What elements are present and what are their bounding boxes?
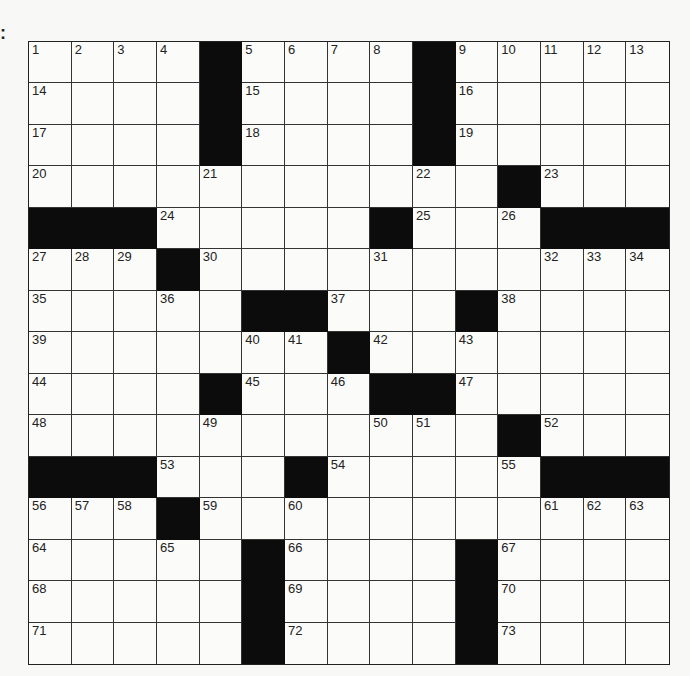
answer-cell[interactable]: 4 bbox=[157, 42, 200, 83]
answer-cell[interactable]: 55 bbox=[498, 457, 541, 498]
answer-cell[interactable] bbox=[285, 374, 328, 415]
answer-cell[interactable] bbox=[584, 83, 627, 124]
answer-cell[interactable] bbox=[541, 540, 584, 581]
answer-cell[interactable] bbox=[456, 415, 499, 456]
answer-cell[interactable] bbox=[370, 623, 413, 664]
answer-cell[interactable] bbox=[456, 166, 499, 207]
answer-cell[interactable] bbox=[114, 374, 157, 415]
answer-cell[interactable] bbox=[200, 208, 243, 249]
answer-cell[interactable]: 10 bbox=[498, 42, 541, 83]
answer-cell[interactable]: 6 bbox=[285, 42, 328, 83]
answer-cell[interactable] bbox=[114, 623, 157, 664]
answer-cell[interactable]: 3 bbox=[114, 42, 157, 83]
answer-cell[interactable] bbox=[498, 83, 541, 124]
answer-cell[interactable]: 17 bbox=[29, 125, 72, 166]
answer-cell[interactable]: 33 bbox=[584, 249, 627, 290]
answer-cell[interactable] bbox=[456, 457, 499, 498]
answer-cell[interactable] bbox=[242, 415, 285, 456]
answer-cell[interactable] bbox=[114, 125, 157, 166]
answer-cell[interactable] bbox=[456, 208, 499, 249]
answer-cell[interactable] bbox=[584, 374, 627, 415]
answer-cell[interactable]: 68 bbox=[29, 581, 72, 622]
answer-cell[interactable]: 53 bbox=[157, 457, 200, 498]
answer-cell[interactable]: 51 bbox=[413, 415, 456, 456]
answer-cell[interactable] bbox=[626, 540, 669, 581]
answer-cell[interactable] bbox=[413, 581, 456, 622]
answer-cell[interactable] bbox=[157, 581, 200, 622]
answer-cell[interactable] bbox=[328, 581, 371, 622]
answer-cell[interactable] bbox=[626, 581, 669, 622]
answer-cell[interactable] bbox=[285, 249, 328, 290]
answer-cell[interactable] bbox=[328, 249, 371, 290]
answer-cell[interactable] bbox=[626, 415, 669, 456]
answer-cell[interactable]: 9 bbox=[456, 42, 499, 83]
answer-cell[interactable]: 60 bbox=[285, 498, 328, 539]
answer-cell[interactable]: 32 bbox=[541, 249, 584, 290]
answer-cell[interactable] bbox=[541, 623, 584, 664]
answer-cell[interactable] bbox=[200, 332, 243, 373]
answer-cell[interactable] bbox=[626, 291, 669, 332]
answer-cell[interactable]: 29 bbox=[114, 249, 157, 290]
answer-cell[interactable] bbox=[626, 374, 669, 415]
answer-cell[interactable] bbox=[626, 83, 669, 124]
answer-cell[interactable]: 7 bbox=[328, 42, 371, 83]
answer-cell[interactable] bbox=[242, 208, 285, 249]
answer-cell[interactable]: 63 bbox=[626, 498, 669, 539]
answer-cell[interactable] bbox=[157, 125, 200, 166]
answer-cell[interactable]: 31 bbox=[370, 249, 413, 290]
answer-cell[interactable] bbox=[584, 415, 627, 456]
answer-cell[interactable] bbox=[72, 374, 115, 415]
answer-cell[interactable]: 16 bbox=[456, 83, 499, 124]
answer-cell[interactable] bbox=[285, 83, 328, 124]
answer-cell[interactable]: 66 bbox=[285, 540, 328, 581]
answer-cell[interactable] bbox=[157, 166, 200, 207]
answer-cell[interactable]: 44 bbox=[29, 374, 72, 415]
answer-cell[interactable] bbox=[328, 125, 371, 166]
answer-cell[interactable]: 24 bbox=[157, 208, 200, 249]
answer-cell[interactable]: 42 bbox=[370, 332, 413, 373]
answer-cell[interactable]: 47 bbox=[456, 374, 499, 415]
answer-cell[interactable] bbox=[498, 498, 541, 539]
answer-cell[interactable]: 67 bbox=[498, 540, 541, 581]
answer-cell[interactable] bbox=[285, 125, 328, 166]
answer-cell[interactable] bbox=[114, 540, 157, 581]
answer-cell[interactable] bbox=[498, 374, 541, 415]
answer-cell[interactable]: 38 bbox=[498, 291, 541, 332]
answer-cell[interactable] bbox=[72, 125, 115, 166]
answer-cell[interactable]: 48 bbox=[29, 415, 72, 456]
answer-cell[interactable] bbox=[413, 332, 456, 373]
answer-cell[interactable] bbox=[370, 581, 413, 622]
answer-cell[interactable] bbox=[157, 374, 200, 415]
answer-cell[interactable] bbox=[370, 83, 413, 124]
answer-cell[interactable]: 1 bbox=[29, 42, 72, 83]
answer-cell[interactable] bbox=[328, 166, 371, 207]
answer-cell[interactable] bbox=[584, 581, 627, 622]
answer-cell[interactable] bbox=[541, 581, 584, 622]
answer-cell[interactable] bbox=[242, 249, 285, 290]
answer-cell[interactable]: 28 bbox=[72, 249, 115, 290]
answer-cell[interactable] bbox=[498, 249, 541, 290]
answer-cell[interactable] bbox=[328, 498, 371, 539]
answer-cell[interactable] bbox=[413, 540, 456, 581]
answer-cell[interactable] bbox=[200, 291, 243, 332]
answer-cell[interactable]: 41 bbox=[285, 332, 328, 373]
answer-cell[interactable] bbox=[200, 457, 243, 498]
answer-cell[interactable]: 52 bbox=[541, 415, 584, 456]
answer-cell[interactable] bbox=[114, 291, 157, 332]
answer-cell[interactable] bbox=[157, 83, 200, 124]
answer-cell[interactable] bbox=[328, 83, 371, 124]
answer-cell[interactable]: 26 bbox=[498, 208, 541, 249]
answer-cell[interactable]: 5 bbox=[242, 42, 285, 83]
answer-cell[interactable]: 13 bbox=[626, 42, 669, 83]
answer-cell[interactable] bbox=[114, 415, 157, 456]
answer-cell[interactable] bbox=[114, 581, 157, 622]
answer-cell[interactable] bbox=[242, 498, 285, 539]
answer-cell[interactable]: 11 bbox=[541, 42, 584, 83]
answer-cell[interactable]: 45 bbox=[242, 374, 285, 415]
answer-cell[interactable] bbox=[114, 83, 157, 124]
answer-cell[interactable] bbox=[541, 125, 584, 166]
answer-cell[interactable] bbox=[328, 540, 371, 581]
answer-cell[interactable]: 61 bbox=[541, 498, 584, 539]
answer-cell[interactable] bbox=[498, 332, 541, 373]
answer-cell[interactable]: 50 bbox=[370, 415, 413, 456]
